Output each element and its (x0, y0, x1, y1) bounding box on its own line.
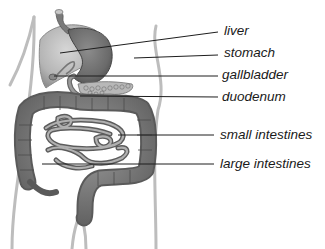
leader-line-stomach (134, 55, 218, 58)
label-stomach: stomach (224, 46, 275, 60)
label-duodenum: duodenum (222, 90, 286, 104)
label-large-intestines: large intestines (220, 157, 311, 171)
digestive-system-diagram (0, 0, 325, 249)
label-small-intestines: small intestines (220, 128, 312, 142)
small-intestine-organ (46, 116, 127, 168)
label-gallbladder: gallbladder (222, 68, 288, 82)
pancreas-organ (78, 82, 133, 96)
label-liver: liver (224, 24, 249, 38)
